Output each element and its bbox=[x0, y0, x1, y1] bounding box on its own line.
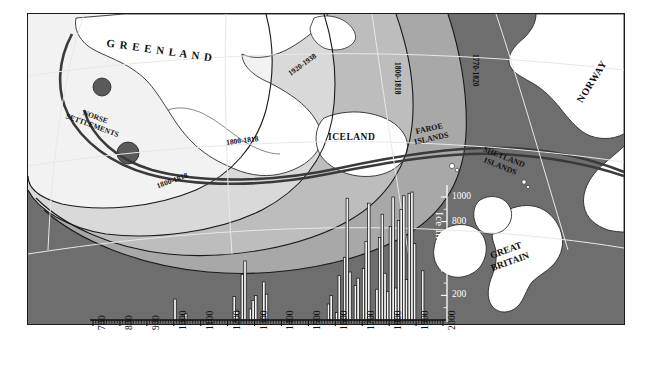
x-tick-label: 1600 bbox=[339, 310, 349, 330]
bar bbox=[376, 289, 378, 320]
x-tick-label: 1300 bbox=[259, 310, 269, 330]
bar bbox=[365, 241, 367, 320]
bar bbox=[252, 300, 254, 320]
x-tick-label: 900 bbox=[151, 315, 161, 330]
x-tick-label: 1100 bbox=[205, 311, 215, 330]
bar bbox=[249, 309, 251, 320]
y-tick-label: 200 bbox=[452, 289, 466, 299]
bar bbox=[389, 227, 391, 320]
figure-root: G R E E N L A N D NORSE SETTLEMENTS ICEL… bbox=[0, 0, 659, 383]
x-tick-label: 1500 bbox=[312, 310, 322, 330]
bar bbox=[362, 268, 364, 320]
bar bbox=[330, 295, 332, 320]
x-tick-label: 700 bbox=[97, 315, 107, 330]
bar bbox=[392, 197, 394, 320]
x-tick-label: 1700 bbox=[366, 310, 376, 330]
bar bbox=[255, 295, 257, 320]
y-tick-label: 400 bbox=[452, 265, 466, 275]
bar bbox=[368, 203, 370, 320]
bar bbox=[413, 244, 415, 320]
x-tick-label: 1000 bbox=[178, 310, 188, 330]
bar bbox=[405, 279, 407, 320]
bar bbox=[381, 214, 383, 320]
ice-index-chart: Ice Index 700800900100011001200130014001… bbox=[0, 0, 659, 383]
bar bbox=[346, 198, 348, 320]
bar-series bbox=[174, 192, 424, 320]
x-tick-label: 1400 bbox=[285, 310, 295, 330]
bar bbox=[174, 299, 176, 320]
x-tick-label: 800 bbox=[124, 315, 134, 330]
bar bbox=[357, 278, 359, 320]
bar bbox=[335, 313, 337, 320]
y-axis-title: Ice Index bbox=[434, 212, 446, 256]
y-tick-label: 1000 bbox=[452, 191, 471, 201]
bar bbox=[349, 272, 351, 320]
bar bbox=[244, 261, 246, 320]
bar bbox=[378, 238, 380, 320]
y-tick-label: 600 bbox=[452, 240, 466, 250]
bar bbox=[408, 193, 410, 320]
x-tick-label: 1800 bbox=[393, 310, 403, 330]
y-tick-label: 800 bbox=[452, 216, 466, 226]
x-tick-label: 1200 bbox=[232, 310, 242, 330]
bar bbox=[411, 192, 413, 320]
x-tick-label: 2000 bbox=[447, 310, 457, 330]
bar bbox=[354, 286, 356, 320]
bar bbox=[327, 304, 329, 320]
bar bbox=[384, 273, 386, 320]
x-tick-label: 1900 bbox=[420, 310, 430, 330]
bar bbox=[400, 209, 402, 320]
bar bbox=[397, 220, 399, 320]
bar bbox=[386, 292, 388, 320]
bar bbox=[403, 196, 405, 320]
